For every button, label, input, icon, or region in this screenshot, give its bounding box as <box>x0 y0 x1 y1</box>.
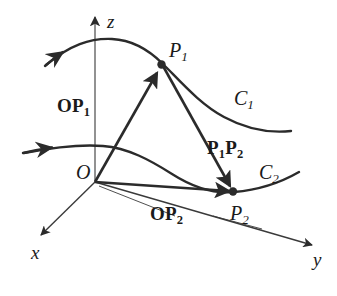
curve-label-c2-base: C <box>259 161 272 183</box>
point-label-p1-base: P <box>169 39 181 61</box>
point-marker-p2 <box>229 187 237 195</box>
curve-c1-group <box>45 39 291 132</box>
curve-label-c2: C2 <box>259 162 279 182</box>
point-label-p2-sub: 2 <box>242 212 249 227</box>
vector-op2-arrow <box>95 182 229 191</box>
vector-p1p2-group <box>163 66 230 186</box>
vector-label-op1-base: OP <box>57 95 84 116</box>
point-label-p2: P2 <box>230 203 249 223</box>
curve-label-c1-sub: 1 <box>247 97 254 112</box>
point-label-p1: P1 <box>169 40 188 60</box>
curve-label-c1-base: C <box>234 87 247 109</box>
vector-label-op2: OP2 <box>150 204 183 223</box>
vector-label-op2-base: OP <box>150 203 177 224</box>
curve-label-c2-sub: 2 <box>272 171 279 186</box>
point-label-p2-base: P <box>230 202 242 224</box>
vector-label-p1p2-second-base: P <box>225 137 237 158</box>
vector-op1-group <box>95 73 157 182</box>
vector-op1-arrow <box>95 73 157 182</box>
origin-label: O <box>76 162 90 182</box>
vector-label-p1p2: P1P2 <box>207 138 244 157</box>
point-label-p1-sub: 1 <box>181 49 188 64</box>
vector-label-op1: OP1 <box>57 96 90 115</box>
vector-diagram-figure: z x y O P1 P2 C1 C2 OP1 OP2 P1P2 <box>0 0 337 296</box>
vector-label-op2-sub: 2 <box>177 213 183 227</box>
point-marker-p1 <box>157 60 165 68</box>
axis-label-z: z <box>107 12 114 31</box>
vector-label-op1-sub: 1 <box>84 105 90 119</box>
axis-label-x: x <box>31 243 39 262</box>
curve-label-c1: C1 <box>234 88 254 108</box>
vector-label-p1p2-second-sub: 2 <box>237 147 243 161</box>
vector-p1p2-arrow <box>163 66 230 186</box>
vector-op2-group <box>95 182 229 191</box>
axis-y-line <box>95 182 312 245</box>
axis-x-line <box>41 182 95 235</box>
axis-label-y: y <box>313 250 321 269</box>
vector-label-p1p2-first-base: P <box>207 137 219 158</box>
